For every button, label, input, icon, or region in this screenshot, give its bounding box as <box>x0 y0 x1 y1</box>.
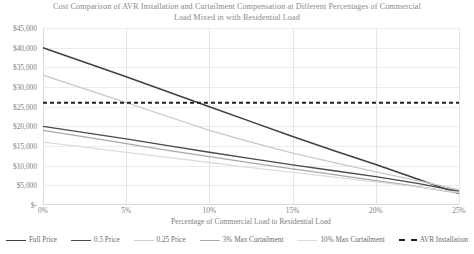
plot-area <box>43 28 459 205</box>
y-axis-tick-label: $10,000 <box>13 161 37 170</box>
chart-title: Cost Comparison of AVR Installation and … <box>51 2 423 23</box>
legend-swatch-icon <box>297 240 317 241</box>
legend-swatch-icon <box>71 240 91 241</box>
legend-label: 0.25 Price <box>157 236 186 244</box>
legend-item[interactable]: Full Price <box>6 236 57 244</box>
series-line <box>43 126 459 191</box>
y-axis-tick-labels: $-$5,000$10,000$15,000$20,000$25,000$30,… <box>0 28 40 205</box>
legend-swatch-icon <box>134 240 154 241</box>
y-axis-tick-label: $35,000 <box>13 63 37 72</box>
x-axis-tick-label: 5% <box>121 206 131 215</box>
y-axis-tick-label: $- <box>31 201 37 210</box>
y-axis-tick-label: $25,000 <box>13 102 37 111</box>
legend-swatch-icon <box>6 240 26 241</box>
legend-item[interactable]: 3% Max Curtailment <box>200 236 284 244</box>
legend-label: AVR Installation <box>420 236 468 244</box>
y-axis-tick-label: $30,000 <box>13 83 37 92</box>
legend-swatch-icon <box>200 240 220 241</box>
y-axis-tick-label: $15,000 <box>13 142 37 151</box>
y-axis-tick-label: $45,000 <box>13 24 37 33</box>
y-axis-tick-label: $5,000 <box>17 181 37 190</box>
chart-legend: Full Price0.5 Price0.25 Price3% Max Curt… <box>0 233 474 247</box>
legend-label: 10% Max Curtailment <box>320 236 384 244</box>
x-axis-tick-label: 25% <box>452 206 466 215</box>
legend-label: 0.5 Price <box>94 236 120 244</box>
legend-label: 3% Max Curtailment <box>223 236 284 244</box>
legend-label: Full Price <box>29 236 57 244</box>
chart-container: Cost Comparison of AVR Installation and … <box>0 0 474 254</box>
data-series-lines <box>43 28 459 205</box>
legend-swatch-icon <box>399 239 417 241</box>
x-axis-title: Percentage of Commercial Load to Residen… <box>43 217 459 226</box>
x-axis-tick-label: 10% <box>203 206 217 215</box>
series-line <box>43 48 459 194</box>
legend-item[interactable]: 0.25 Price <box>134 236 186 244</box>
legend-item[interactable]: AVR Installation <box>399 236 468 244</box>
y-axis-tick-label: $20,000 <box>13 122 37 131</box>
x-axis-tick-label: 0% <box>38 206 48 215</box>
series-line <box>43 142 459 192</box>
legend-item[interactable]: 10% Max Curtailment <box>297 236 384 244</box>
y-axis-tick-label: $40,000 <box>13 43 37 52</box>
vertical-gridline <box>459 28 460 205</box>
x-axis-tick-label: 20% <box>369 206 383 215</box>
x-axis-tick-label: 15% <box>286 206 300 215</box>
legend-item[interactable]: 0.5 Price <box>71 236 120 244</box>
